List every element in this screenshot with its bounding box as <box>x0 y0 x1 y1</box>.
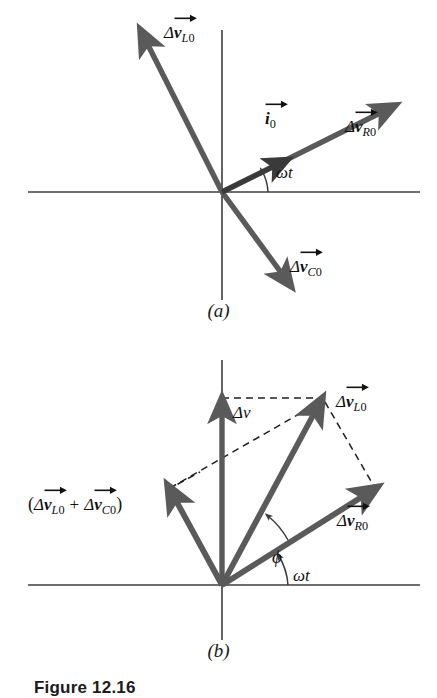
panel-a-omega-t-arc <box>262 171 268 192</box>
panel-b-label-omega-t: ωt <box>293 566 310 586</box>
panel-b-label-vl0: ΔvL0 <box>336 393 367 413</box>
panel-b-dashed-left-corner <box>167 472 200 490</box>
panel-b-caption: (b) <box>0 640 437 662</box>
panel-a-phasor-diagram <box>0 0 437 300</box>
panel-b-phi-arc <box>268 516 288 540</box>
panel-a-label-vl0: ΔvL0 <box>164 24 195 44</box>
panel-a-label-i0: i0 <box>265 110 276 130</box>
panel-a-label-omega-t: ωt <box>276 163 293 183</box>
figure-number-caption: Figure 12.16 <box>34 678 136 698</box>
panel-b-label-vr0: ΔvR0 <box>337 512 368 532</box>
panel-b-label-phi: ϕ <box>272 546 282 568</box>
panel-b-dashed-vl0-to-vr0 <box>325 402 375 488</box>
panel-b-phasor-diagram <box>0 340 437 640</box>
panel-a-label-vc0: ΔvC0 <box>290 258 322 278</box>
panel-b-vector-vl0-plus-vc0 <box>173 495 222 585</box>
panel-b-label-vl0-plus-vc0: (ΔvL0+ΔvC0) <box>28 496 122 516</box>
panel-a-vector-vl0 <box>145 39 222 192</box>
panel-a-caption: (a) <box>0 300 437 322</box>
panel-a-label-vr0: ΔvR0 <box>345 118 376 138</box>
panel-a-vector-vc0 <box>222 192 285 278</box>
panel-b-label-plus-sign: + <box>65 495 85 514</box>
panel-a-vector-i0 <box>222 164 279 192</box>
panel-b-label-delta-v: Δv <box>233 404 251 421</box>
